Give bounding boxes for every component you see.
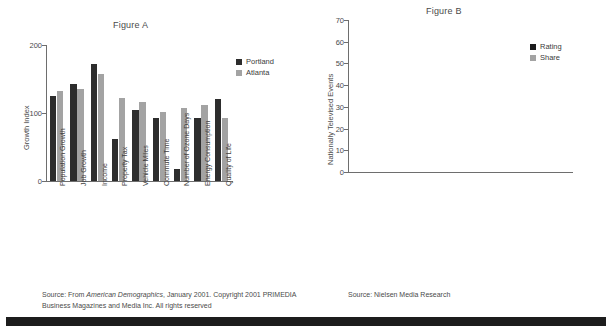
figure-b-ytick-mark-0 [344,172,348,173]
legend-swatch-icon-portland [236,59,242,65]
figure-a-ytick-mark-0 [42,181,46,182]
figure-a-category-label-0: Population Growth [59,128,66,186]
bar-portland-5 [153,118,159,181]
figure-a-source-line1: Source: From American Demographics, Janu… [42,289,296,300]
bar-portland-6 [174,169,180,181]
figure-a-category-label-3: Property Tax [121,147,128,186]
figure-a-source-line2: Business Magazines and Media Inc. All ri… [42,300,296,311]
legend-label-portland: Portland [246,57,274,66]
source-publication: American Demographics [86,291,163,298]
legend-label-atlanta: Atlanta [246,68,269,77]
legend-item-portland: Portland [236,57,274,66]
figure-a-title: Figure A [113,20,148,30]
figure-a-category-label-4: Vehicle Miles [142,145,149,186]
figure-b-ytick-mark-40 [344,85,348,86]
figure-b-title: Figure B [426,6,462,16]
figure-b-ytick-70: 70 [322,16,344,25]
figure-b: Figure B Nationally Televised Events 010… [306,0,612,285]
legend-item-atlanta: Atlanta [236,68,274,77]
figure-b-ytick-mark-10 [344,150,348,151]
legend-item-rating: Rating [530,42,562,51]
figure-b-ytick-50: 50 [322,59,344,68]
figure-a-category-label-8: Quality of Life [225,143,232,186]
figure-b-source: Source: Nielsen Media Research [348,289,450,300]
legend-label-share: Share [540,53,560,62]
bar-portland-4 [132,110,138,181]
figure-b-ytick-60: 60 [322,38,344,47]
figure-a-ytick-200: 200 [20,41,42,50]
figure-b-ytick-30: 30 [322,103,344,112]
figure-b-x-axis [348,172,573,173]
figure-b-ytick-0: 0 [322,168,344,177]
figure-a-source: Source: From American Demographics, Janu… [42,289,296,311]
figure-a-legend: Portland Atlanta [236,57,274,79]
figure-b-legend: Rating Share [530,42,562,64]
figure-a-category-label-2: Income [101,163,108,186]
source-prefix: Source: From [42,291,86,298]
bar-portland-8 [215,99,221,181]
figure-b-ytick-10: 10 [322,146,344,155]
legend-item-share: Share [530,53,562,62]
bar-portland-0 [50,96,56,181]
bar-portland-3 [112,139,118,181]
bar-portland-2 [91,64,97,181]
bar-portland-7 [194,118,200,181]
figure-a: Figure A Growth Index 200 100 0 Portland… [0,0,306,285]
figure-b-ytick-mark-70 [344,20,348,21]
figure-a-category-label-6: Number of Ozone Days [183,113,190,186]
figure-b-ytick-mark-60 [344,42,348,43]
figure-a-category-label-1: Job Growth [80,150,87,186]
figure-page: Figure A Growth Index 200 100 0 Portland… [0,0,612,330]
figure-b-y-axis [348,20,349,173]
figure-a-ytick-0: 0 [20,177,42,186]
figure-b-ytick-40: 40 [322,81,344,90]
legend-label-rating: Rating [540,42,562,51]
legend-swatch-icon-atlanta [236,70,242,76]
source-suffix: , January 2001. Copyright 2001 PRIMEDIA [163,291,296,298]
figure-b-ytick-mark-30 [344,107,348,108]
legend-swatch-icon-share [530,55,536,61]
figure-b-ytick-mark-20 [344,129,348,130]
figure-b-ytick-20: 20 [322,125,344,134]
bar-portland-1 [70,84,76,181]
figure-a-category-label-7: Energy Consumption [204,121,211,186]
figure-b-ytick-mark-50 [344,63,348,64]
figure-a-ytick-100: 100 [20,109,42,118]
bottom-decorative-band [6,317,606,326]
figure-a-category-label-5: Commute Time [163,139,170,186]
legend-swatch-icon-rating [530,44,536,50]
